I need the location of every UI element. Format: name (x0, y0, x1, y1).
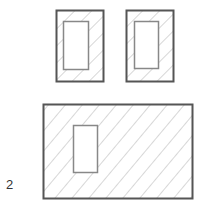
inner-hole (64, 22, 89, 70)
large-hatched-block (44, 105, 193, 199)
outer-rectangle (44, 105, 193, 199)
diagram-canvas: 2 (0, 0, 201, 212)
small-hatched-block-left (57, 11, 104, 82)
inner-hole (74, 126, 98, 173)
small-hatched-block-right (127, 11, 174, 82)
inner-hole (135, 22, 159, 69)
figure-label-2: 2 (6, 177, 13, 192)
